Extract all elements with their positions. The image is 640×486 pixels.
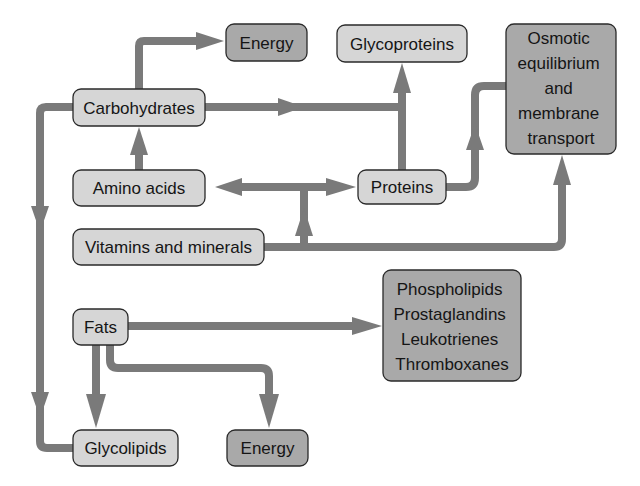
- node-vitamins-minerals: Vitamins and minerals: [73, 229, 264, 265]
- node-label: Vitamins and minerals: [85, 238, 252, 257]
- arrowhead-icon: [130, 127, 148, 155]
- node-carbohydrates: Carbohydrates: [73, 89, 205, 126]
- node-label: Proteins: [371, 178, 433, 197]
- node-label: Amino acids: [93, 179, 186, 198]
- node-label: Fats: [84, 318, 117, 337]
- node-lipid-derivatives: Phospholipids Prostaglandins Leukotriene…: [383, 270, 521, 381]
- node-glycoproteins: Glycoproteins: [337, 25, 467, 62]
- metabolism-diagram: Energy Glycoproteins Osmotic equilibrium…: [0, 0, 640, 486]
- arrowhead-icon: [553, 155, 571, 185]
- edge-fats-energy: [110, 345, 269, 405]
- node-fats: Fats: [73, 309, 128, 345]
- arrowhead-icon: [352, 317, 382, 335]
- arrowhead-icon: [86, 394, 106, 428]
- line-1: Phospholipids: [397, 280, 503, 299]
- line-4: Thromboxanes: [395, 355, 508, 374]
- line-2: equilibrium: [518, 54, 600, 73]
- arrowhead-icon: [393, 63, 411, 93]
- arrowhead-icon: [259, 394, 279, 428]
- arrowhead-icon: [295, 208, 313, 236]
- node-energy-bottom: Energy: [227, 430, 308, 466]
- line-3: and: [544, 79, 572, 98]
- line-5: transport: [527, 129, 594, 148]
- node-label: Glycoproteins: [350, 35, 454, 54]
- node-label: Carbohydrates: [83, 99, 195, 118]
- node-osmotic-equilibrium: Osmotic equilibrium and membrane transpo…: [506, 24, 616, 154]
- arrowhead-icon: [278, 98, 304, 116]
- arrowhead-icon: [31, 206, 49, 232]
- arrowhead-icon: [196, 32, 224, 50]
- node-energy-top: Energy: [226, 24, 307, 61]
- node-amino-acids: Amino acids: [73, 170, 205, 206]
- line-3: Leukotrienes: [401, 330, 498, 349]
- arrowhead-icon: [326, 178, 356, 196]
- node-proteins: Proteins: [358, 170, 446, 204]
- arrowhead-icon: [31, 392, 49, 418]
- line-1: Osmotic: [527, 29, 590, 48]
- line-2: Prostaglandins: [393, 305, 505, 324]
- line-4: membrane: [518, 104, 599, 123]
- node-label: Glycolipids: [84, 439, 166, 458]
- node-label: Energy: [241, 439, 295, 458]
- edge-carbohydrates-energy: [139, 41, 200, 89]
- arrowhead-icon: [466, 124, 484, 150]
- node-glycolipids: Glycolipids: [73, 430, 178, 466]
- arrowhead-icon: [215, 178, 242, 196]
- node-label: Energy: [240, 34, 294, 53]
